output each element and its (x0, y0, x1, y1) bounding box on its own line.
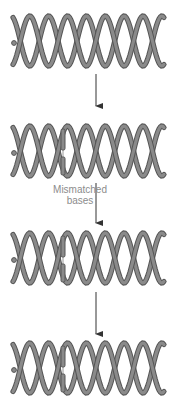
dna-helix-3 (12, 233, 164, 283)
dna-mismatch-diagram (0, 0, 186, 412)
mismatched-base-upper (61, 129, 65, 150)
strand-end-cap (12, 258, 17, 263)
mismatched-bases-label: Mismatched bases (45, 184, 115, 206)
strand-end-cap (12, 41, 17, 46)
strand-end-cap (12, 368, 17, 373)
dna-helix-2 (12, 126, 164, 176)
mismatched-base-lower (61, 374, 65, 392)
strand-end-cap (12, 151, 17, 156)
mismatched-label-line1: Mismatched (45, 184, 115, 195)
dna-helix-1 (12, 16, 164, 66)
mismatched-base-upper (61, 346, 65, 367)
mismatched-base-lower (61, 264, 65, 282)
dna-helix-4 (12, 343, 164, 393)
mismatched-base-upper (61, 236, 65, 257)
mismatched-base-lower (61, 157, 65, 175)
mismatched-label-line2: bases (45, 195, 115, 206)
